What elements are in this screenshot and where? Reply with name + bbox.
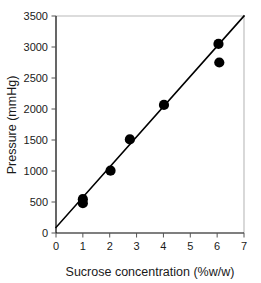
data-point-marker	[214, 57, 224, 67]
y-tick-label: 0	[42, 227, 48, 239]
x-tick-label: 6	[214, 240, 220, 252]
x-tick-label: 3	[134, 240, 140, 252]
data-point-marker	[159, 100, 169, 110]
x-axis-ticks: 01234567	[53, 233, 247, 252]
data-point-marker	[125, 134, 135, 144]
y-tick-label: 1000	[24, 165, 48, 177]
y-axis-ticks: 0500100015002000250030003500	[24, 10, 56, 239]
x-axis-title: Sucrose concentration (%w/w)	[66, 265, 235, 279]
chart-canvas: 01234567 0500100015002000250030003500 Su…	[0, 0, 261, 283]
x-tick-label: 4	[160, 240, 166, 252]
data-point-marker	[78, 194, 88, 204]
scatter-chart-figure: 01234567 0500100015002000250030003500 Su…	[0, 0, 261, 283]
y-tick-label: 3000	[24, 41, 48, 53]
y-axis-title: Pressure (mmHg)	[5, 76, 19, 175]
data-point-marker	[213, 39, 223, 49]
x-tick-label: 7	[241, 240, 247, 252]
y-tick-label: 2500	[24, 72, 48, 84]
y-tick-label: 1500	[24, 134, 48, 146]
x-tick-label: 0	[53, 240, 59, 252]
y-tick-label: 500	[30, 196, 48, 208]
x-tick-label: 1	[80, 240, 86, 252]
x-tick-label: 2	[107, 240, 113, 252]
y-tick-label: 2000	[24, 103, 48, 115]
y-tick-label: 3500	[24, 10, 48, 22]
data-points	[78, 39, 225, 209]
x-tick-label: 5	[187, 240, 193, 252]
data-point-marker	[105, 166, 115, 176]
